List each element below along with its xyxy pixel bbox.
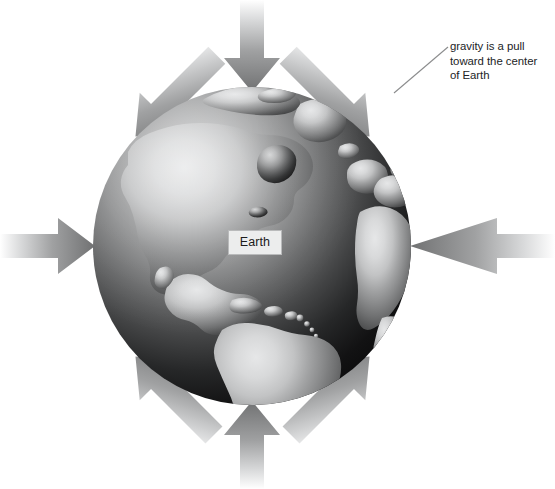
earth-label: Earth <box>228 230 282 255</box>
annotation-line-3: of Earth <box>450 68 555 83</box>
arrow-bottom <box>224 401 280 489</box>
annotation-leader-line <box>394 47 448 93</box>
gravity-annotation: gravity is a pull toward the center of E… <box>450 39 555 83</box>
gravity-earth-figure: Earth gravity is a pull toward the cente… <box>0 0 555 489</box>
arrow-right <box>410 218 555 274</box>
annotation-line-1: gravity is a pull <box>450 39 555 54</box>
annotation-line-2: toward the center <box>450 54 555 69</box>
arrow-left <box>0 218 95 274</box>
earth-globe <box>93 87 416 455</box>
arrow-top <box>224 0 280 92</box>
